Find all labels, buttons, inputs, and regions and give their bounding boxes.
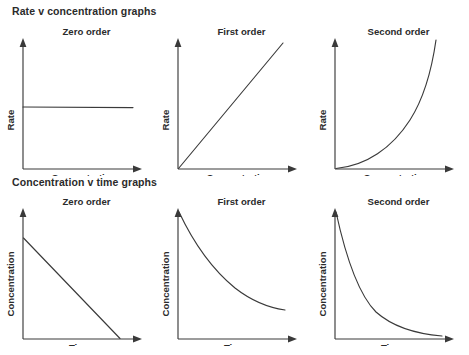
x-axis-arrow-icon — [445, 336, 454, 343]
chart-svg: Rate Concentration — [0, 24, 155, 176]
chart-svg: Concentration Time — [155, 194, 310, 346]
y-axis-arrow-icon — [20, 38, 27, 47]
data-curve — [336, 40, 436, 169]
x-axis-arrow-icon — [133, 336, 142, 343]
x-axis-label: Concentration — [206, 172, 271, 176]
y-axis-arrow-icon — [175, 38, 182, 47]
y-axis-arrow-icon — [332, 38, 339, 47]
x-axis-label: Time — [69, 342, 91, 346]
chart-rate-zero-order: Zero order Rate Concentration — [0, 24, 155, 176]
chart-svg: Concentration Time — [312, 194, 467, 346]
y-axis-label: Rate — [160, 110, 171, 131]
data-curve — [336, 212, 442, 336]
data-curve — [24, 238, 121, 339]
section-title-concentration-v-time: Concentration v time graphs — [12, 176, 157, 188]
x-axis-arrow-icon — [445, 166, 454, 173]
x-axis-label: Time — [224, 342, 246, 346]
chart-concentration-second-order: Second order Concentration Time — [312, 194, 467, 346]
x-axis-arrow-icon — [288, 336, 297, 343]
chart-rate-first-order: First order Rate Concentration — [155, 24, 310, 176]
x-axis-label: Concentration — [363, 172, 428, 176]
chart-rate-second-order: Second order Rate Concentration — [312, 24, 467, 176]
chart-svg: Concentration Time — [0, 194, 155, 346]
y-axis-label: Concentration — [5, 251, 16, 316]
chart-concentration-zero-order: Zero order Concentration Time — [0, 194, 155, 346]
y-axis-label: Rate — [317, 110, 328, 131]
x-axis-arrow-icon — [288, 166, 297, 173]
y-axis-arrow-icon — [20, 208, 27, 217]
data-curve — [179, 212, 285, 310]
x-axis-label: Time — [381, 342, 403, 346]
chart-svg: Rate Concentration — [312, 24, 467, 176]
x-axis-label: Concentration — [51, 172, 116, 176]
y-axis-label: Concentration — [317, 251, 328, 316]
chart-svg: Rate Concentration — [155, 24, 310, 176]
chart-concentration-first-order: First order Concentration Time — [155, 194, 310, 346]
x-axis-arrow-icon — [133, 166, 142, 173]
section-title-rate-v-concentration: Rate v concentration graphs — [12, 5, 156, 17]
y-axis-label: Rate — [5, 110, 16, 131]
data-curve — [23, 107, 133, 108]
y-axis-label: Concentration — [160, 251, 171, 316]
data-curve — [179, 43, 284, 169]
